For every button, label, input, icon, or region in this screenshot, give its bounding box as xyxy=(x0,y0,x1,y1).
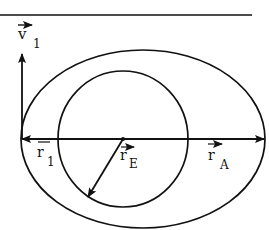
center-point xyxy=(121,137,125,141)
re-vector-arrow xyxy=(88,139,123,197)
label-ra: r A xyxy=(208,144,229,172)
svg-text:r: r xyxy=(208,147,215,163)
svg-text:A: A xyxy=(219,158,229,172)
svg-text:v: v xyxy=(17,25,27,43)
svg-text:E: E xyxy=(129,157,138,171)
svg-text:1: 1 xyxy=(33,37,41,51)
orbit-diagram: v 1 r 1 r E r A xyxy=(0,0,269,230)
svg-text:r: r xyxy=(120,147,127,163)
label-v1: v 1 xyxy=(17,25,41,51)
label-r1: r 1 xyxy=(37,142,55,169)
label-re: r E xyxy=(120,147,138,171)
svg-text:1: 1 xyxy=(47,155,55,169)
svg-text:r: r xyxy=(37,144,44,160)
